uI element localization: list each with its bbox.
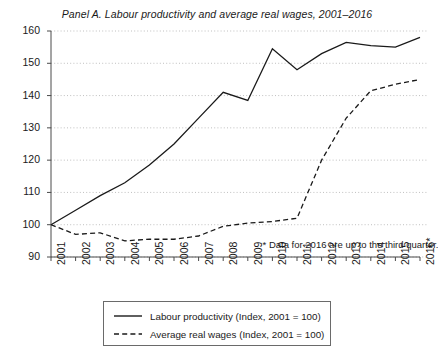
y-tick-label-120: 120 bbox=[10, 153, 40, 165]
x-tick-label-2005: 2005 bbox=[153, 242, 165, 265]
legend-item-average-real-wages: Average real wages (Index, 2001 = 100) bbox=[113, 326, 324, 342]
x-tick-label-2001: 2001 bbox=[55, 242, 67, 265]
y-tick-label-150: 150 bbox=[10, 56, 40, 68]
y-tick-label-160: 160 bbox=[10, 24, 40, 36]
y-tick-label-90: 90 bbox=[10, 250, 40, 262]
chart-title: Panel A. Labour productivity and average… bbox=[0, 8, 434, 20]
y-tick-label-140: 140 bbox=[10, 89, 40, 101]
x-tick-label-2007: 2007 bbox=[203, 242, 215, 265]
legend-label-labour-productivity: Labour productivity (Index, 2001 = 100) bbox=[150, 311, 321, 322]
x-tick-label-2006: 2006 bbox=[178, 242, 190, 265]
x-tick-label-2004: 2004 bbox=[129, 242, 141, 265]
y-axis-ticks bbox=[47, 31, 51, 257]
x-tick-label-2002: 2002 bbox=[80, 242, 92, 265]
line-chart-svg bbox=[0, 24, 434, 269]
y-tick-label-100: 100 bbox=[10, 218, 40, 230]
legend-item-labour-productivity: Labour productivity (Index, 2001 = 100) bbox=[113, 308, 321, 324]
gridlines-group bbox=[51, 31, 428, 257]
x-tick-label-2003: 2003 bbox=[104, 242, 116, 265]
legend-label-average-real-wages: Average real wages (Index, 2001 = 100) bbox=[150, 329, 324, 340]
legend-line-sample-solid bbox=[113, 311, 143, 321]
legend-line-sample-dashed bbox=[113, 329, 143, 339]
chart-legend: Labour productivity (Index, 2001 = 100) … bbox=[103, 301, 331, 346]
series-line-labour-productivity bbox=[51, 37, 420, 224]
data-series-group bbox=[51, 37, 420, 240]
axes-group bbox=[51, 31, 420, 257]
y-tick-label-130: 130 bbox=[10, 121, 40, 133]
footnote-annotation: * Data for 2016 are up to the third quar… bbox=[263, 239, 438, 250]
x-tick-label-2008: 2008 bbox=[227, 242, 239, 265]
y-tick-label-110: 110 bbox=[10, 185, 40, 197]
plot-area: 90100110120130140150160 bbox=[0, 24, 434, 269]
